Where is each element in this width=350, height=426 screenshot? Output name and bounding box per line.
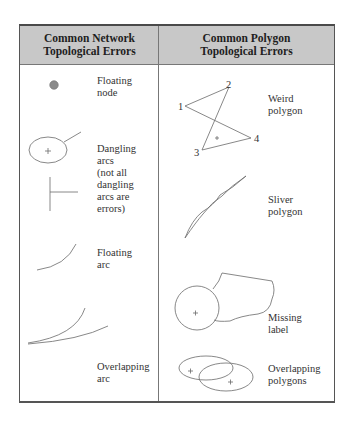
overlapping-polygons-icon: [179, 356, 253, 391]
floating-node-icon: [50, 81, 58, 89]
sliver-polygon-icon: [185, 176, 246, 238]
dangling-arc-icon: [29, 132, 81, 163]
overlapping-arc-icon: [28, 308, 108, 344]
vertex-2: 2: [226, 79, 231, 90]
vertex-1: 1: [178, 101, 183, 112]
vertex-4: 4: [254, 133, 260, 144]
weird-polygon-icon: [185, 87, 251, 150]
dangling-t-icon: [50, 177, 78, 211]
missing-label-icon: [175, 273, 274, 330]
floating-arc-icon: [37, 244, 76, 270]
diagram-illustrations: 1 2 3 4: [0, 0, 350, 426]
vertex-3: 3: [194, 147, 199, 158]
